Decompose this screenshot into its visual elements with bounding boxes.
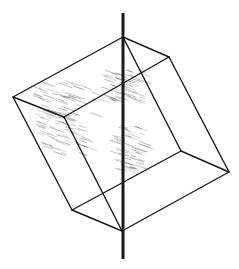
cube-edge	[72, 210, 122, 231]
cube-edge	[13, 97, 72, 210]
cube-edge	[181, 151, 229, 172]
cube-edge	[72, 151, 181, 210]
shading-stipple	[32, 70, 154, 174]
cube-edge	[169, 57, 229, 172]
cube-edge	[13, 97, 64, 117]
cube-edge	[64, 117, 122, 231]
cube-edge	[122, 172, 229, 231]
cube-edge	[13, 37, 123, 97]
cube-edge	[123, 37, 169, 57]
cube-edge	[123, 37, 181, 151]
cube-edge	[64, 57, 169, 117]
rotated-cube-diagram	[0, 0, 239, 269]
